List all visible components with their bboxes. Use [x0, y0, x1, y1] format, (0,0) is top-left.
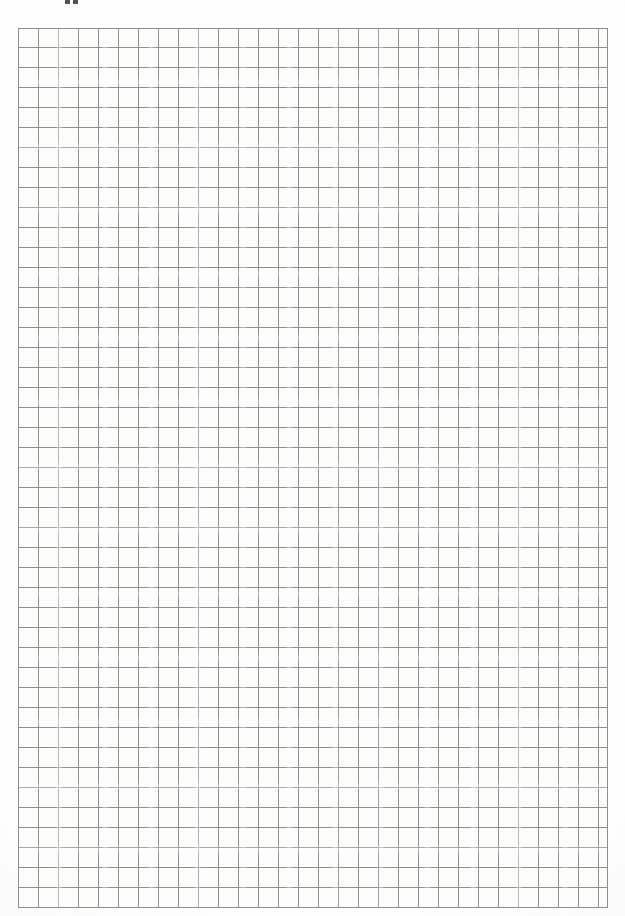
ink-mark-right — [73, 0, 78, 4]
grid-mottle-overlay — [18, 28, 608, 908]
scan-edge-marks — [0, 0, 625, 12]
grid-lines — [18, 28, 608, 908]
scanned-page — [0, 0, 625, 916]
ink-mark-left — [65, 0, 70, 4]
grid-outer-border — [18, 28, 608, 908]
graph-paper-grid — [18, 28, 608, 908]
